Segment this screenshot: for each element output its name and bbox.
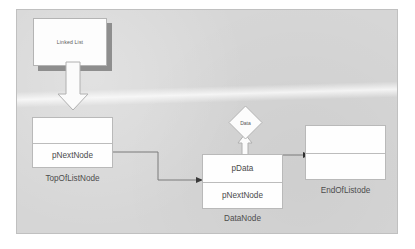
node-end-of-list-node-cell-0 <box>306 126 385 153</box>
node-end-of-list-node-cell-1 <box>306 153 385 180</box>
node-data-node-caption: DataNode <box>202 214 283 223</box>
linked-list-box-label: Linked List <box>57 39 83 45</box>
diagram-canvas: Linked List Data pNextNode TopOfListNode… <box>0 0 415 249</box>
data-diamond[interactable]: Data <box>229 106 262 139</box>
node-data-node-cell-0: pData <box>203 155 282 182</box>
data-diamond-label: Data <box>229 106 262 139</box>
node-end-of-list-node-caption: EndOfListode <box>305 186 386 195</box>
linked-list-box[interactable]: Linked List <box>33 18 107 66</box>
node-top-of-list-node[interactable]: pNextNode <box>32 117 113 168</box>
scan-glare-streak <box>16 78 398 110</box>
node-top-of-list-node-caption: TopOfListNode <box>32 174 113 183</box>
node-data-node[interactable]: pData pNextNode <box>202 154 283 209</box>
node-end-of-list-node[interactable] <box>305 125 386 180</box>
node-data-node-cell-1: pNextNode <box>203 182 282 209</box>
node-top-of-list-node-cell-1: pNextNode <box>33 143 112 168</box>
node-top-of-list-node-cell-0 <box>33 118 112 143</box>
